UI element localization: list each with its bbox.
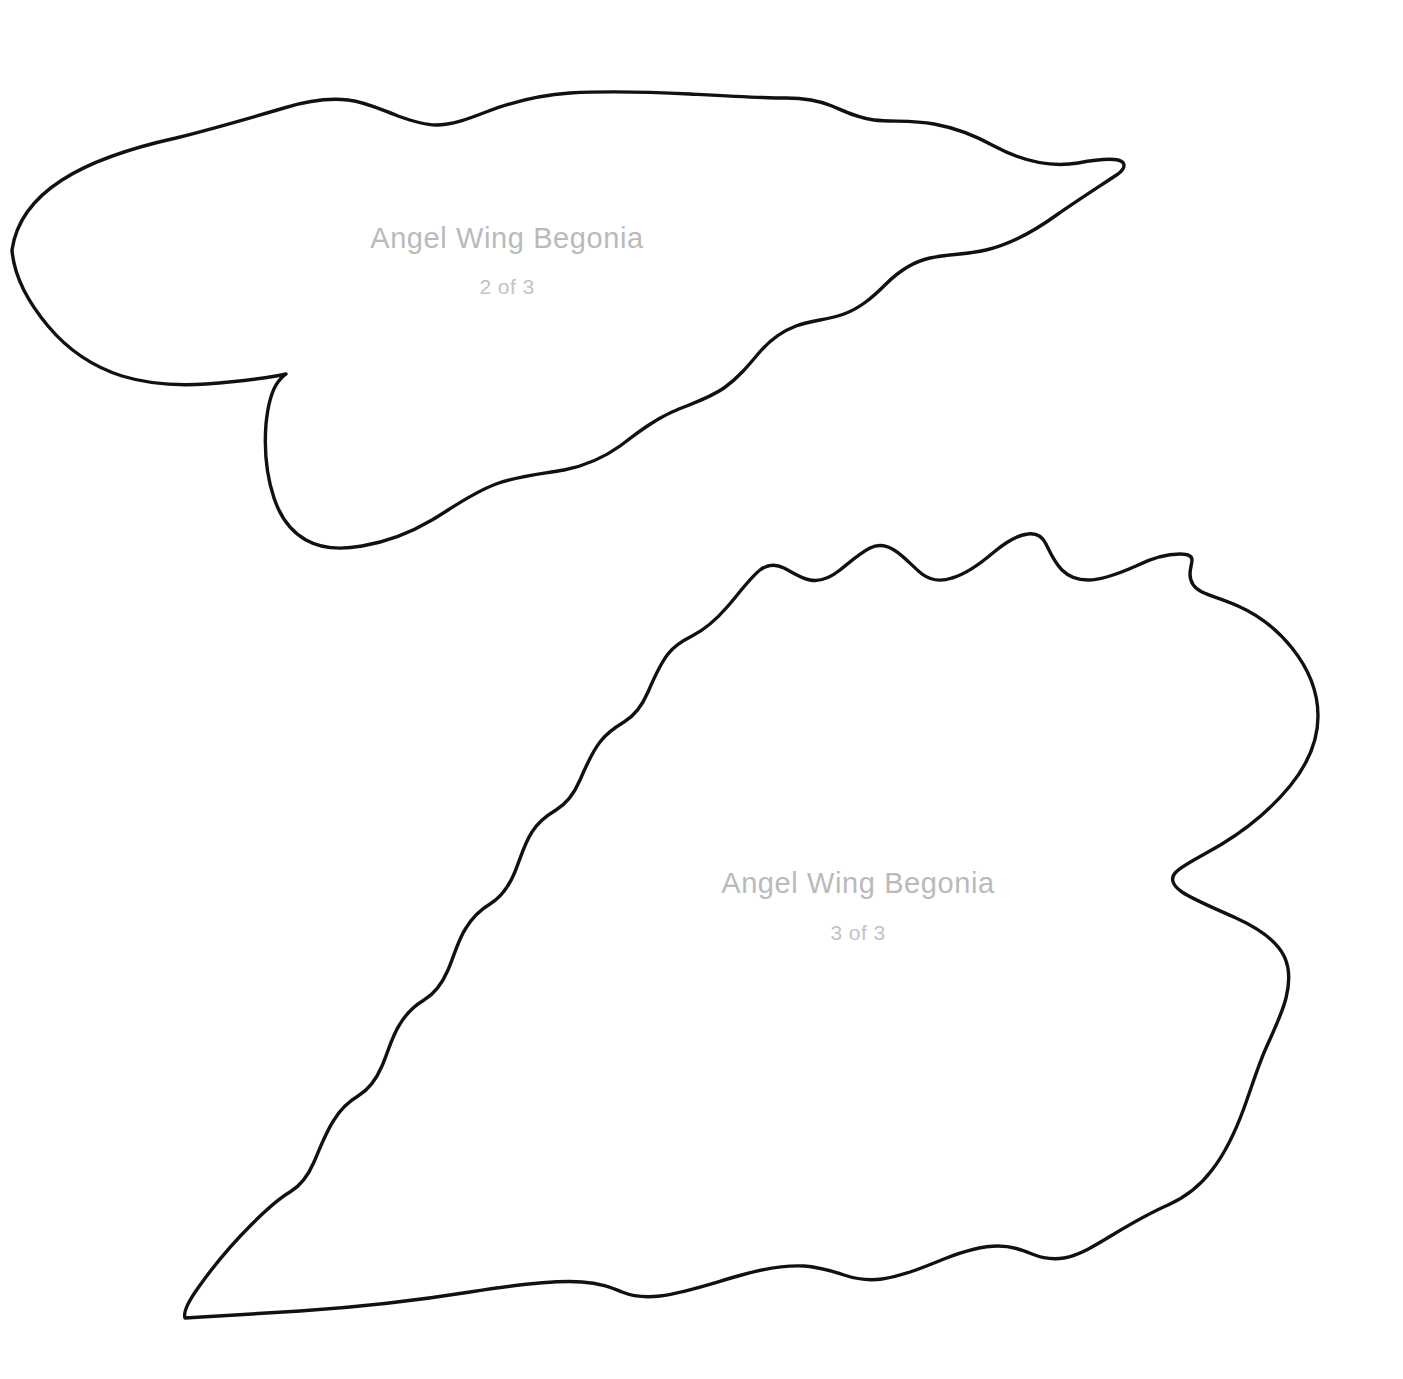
leaf-label-title-upper: Angel Wing Begonia — [370, 222, 644, 254]
leaf-label-subtitle-upper: 2 of 3 — [480, 275, 535, 298]
leaf-template-canvas: Angel Wing Begonia 2 of 3 Angel Wing Beg… — [0, 0, 1403, 1379]
leaf-label-title-lower: Angel Wing Begonia — [721, 867, 995, 899]
template-page: Angel Wing Begonia 2 of 3 Angel Wing Beg… — [0, 0, 1403, 1379]
leaf-label-subtitle-lower: 3 of 3 — [831, 921, 886, 944]
